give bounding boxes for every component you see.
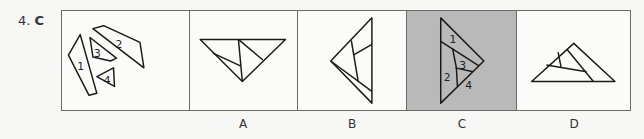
option-b-panel[interactable] xyxy=(298,11,407,110)
given-pieces-figure: 1 2 3 4 xyxy=(62,11,189,110)
option-d-panel[interactable] xyxy=(517,11,630,110)
question-number: 4.C xyxy=(18,13,44,28)
option-d-figure xyxy=(517,11,630,110)
option-c-panel[interactable]: 1 2 3 4 xyxy=(407,11,518,110)
piece-2-label: 2 xyxy=(115,38,122,51)
panel-given-pieces: 1 2 3 4 xyxy=(62,11,190,110)
option-d-label[interactable]: D xyxy=(564,117,584,131)
option-c-label[interactable]: C xyxy=(452,117,472,131)
option-b-figure xyxy=(298,11,406,110)
option-a-panel[interactable] xyxy=(190,11,299,110)
c-piece-2-label: 2 xyxy=(443,71,450,84)
piece-1-label: 1 xyxy=(77,60,84,73)
option-c-figure: 1 2 3 4 xyxy=(407,11,517,110)
question-number-text: 4. xyxy=(18,13,30,28)
c-piece-3-label: 3 xyxy=(459,59,466,72)
option-b-label[interactable]: B xyxy=(342,117,362,131)
piece-3-label: 3 xyxy=(94,47,101,60)
option-a-figure xyxy=(190,11,298,110)
c-piece-4-label: 4 xyxy=(465,79,472,92)
piece-4-label: 4 xyxy=(104,74,111,87)
option-labels: A B C D xyxy=(0,117,644,135)
option-a-label[interactable]: A xyxy=(233,117,253,131)
figure-strip: 1 2 3 4 1 2 3 xyxy=(61,10,631,111)
answer-letter: C xyxy=(34,13,44,28)
c-piece-1-label: 1 xyxy=(449,33,456,46)
